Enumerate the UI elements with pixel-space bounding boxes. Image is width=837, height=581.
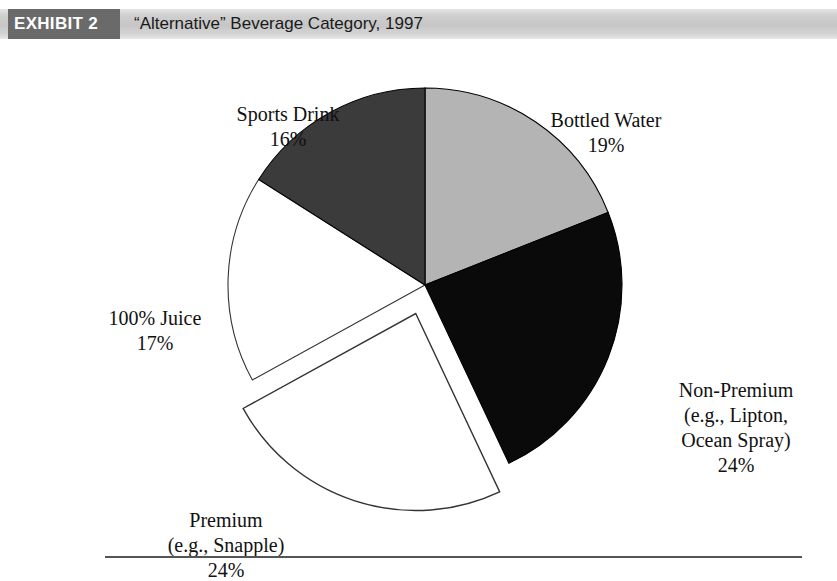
slice-label-non-premium-name: Non-Premium [640, 378, 832, 403]
slice-label-premium-value: 24% [110, 558, 342, 581]
slice-label-juice-name: 100% Juice [60, 306, 250, 331]
slice-label-non-premium: Non-Premium (e.g., Lipton, Ocean Spray) … [640, 378, 832, 478]
slice-label-sports-drink: Sports Drink 16% [178, 102, 398, 152]
pie-chart-area: Sports Drink 16% Bottled Water 19% Non-P… [0, 40, 837, 572]
slice-label-non-premium-detail-2: Ocean Spray) [640, 428, 832, 453]
slice-label-premium-detail: (e.g., Snapple) [110, 533, 342, 558]
slice-label-sports-drink-name: Sports Drink [178, 102, 398, 127]
slice-label-juice: 100% Juice 17% [60, 306, 250, 356]
slice-label-non-premium-value: 24% [640, 453, 832, 478]
slice-label-premium-name: Premium [110, 508, 342, 533]
exhibit-number-label: EXHIBIT 2 [14, 14, 118, 34]
slice-label-non-premium-detail-1: (e.g., Lipton, [640, 403, 832, 428]
slice-label-bottled-water-value: 19% [488, 133, 724, 158]
slice-label-premium: Premium (e.g., Snapple) 24% [110, 508, 342, 581]
slice-label-bottled-water: Bottled Water 19% [488, 108, 724, 158]
exhibit-title: “Alternative” Beverage Category, 1997 [134, 13, 423, 34]
slice-label-juice-value: 17% [60, 331, 250, 356]
slice-label-sports-drink-value: 16% [178, 127, 398, 152]
slice-label-bottled-water-name: Bottled Water [488, 108, 724, 133]
exhibit-bottom-rule [105, 556, 802, 558]
